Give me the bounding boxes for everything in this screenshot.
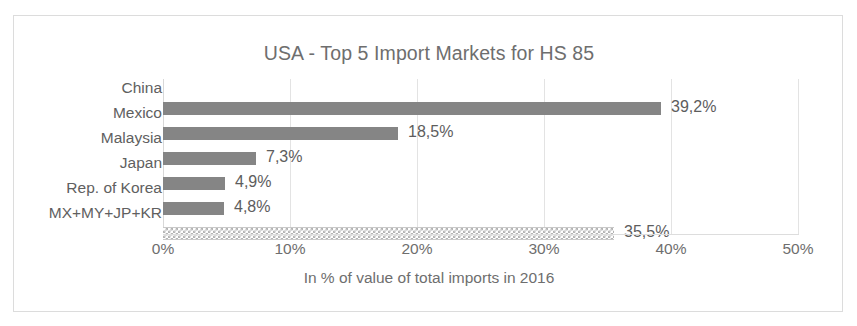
- category-label-china: China: [2, 79, 162, 97]
- bar-value-mx-my-jp-kr: 35,5%: [624, 223, 669, 241]
- bar-value-rep-of-korea: 4,8%: [234, 198, 270, 216]
- bar-value-china: 39,2%: [671, 98, 716, 116]
- category-label-malaysia: Malaysia: [2, 129, 162, 147]
- category-label-japan: Japan: [2, 154, 162, 172]
- chart-title: USA - Top 5 Import Markets for HS 85: [14, 42, 844, 65]
- category-label-mx-my-jp-kr: MX+MY+JP+KR: [2, 204, 162, 222]
- x-tick-50: 50%: [782, 240, 813, 258]
- x-axis-line: [163, 234, 799, 235]
- category-label-rep-of-korea: Rep. of Korea: [2, 179, 162, 197]
- chart-container: USA - Top 5 Import Markets for HS 85 Chi…: [13, 15, 843, 312]
- gridline-50: [798, 79, 799, 234]
- bar-value-japan: 4,9%: [235, 173, 271, 191]
- x-tick-0: 0%: [152, 240, 174, 258]
- plot-area: 39,2% 18,5% 7,3% 4,9% 4,8% 35,5%: [163, 79, 798, 234]
- x-axis-tick-labels: 0% 10% 20% 30% 40% 50%: [163, 240, 798, 262]
- bar-value-mexico: 18,5%: [408, 123, 453, 141]
- category-axis-labels: China Mexico Malaysia Japan Rep. of Kore…: [2, 79, 162, 234]
- x-tick-30: 30%: [528, 240, 559, 258]
- x-tick-40: 40%: [655, 240, 686, 258]
- x-axis-title: In % of value of total imports in 2016: [14, 269, 844, 287]
- category-label-mexico: Mexico: [2, 104, 162, 122]
- bar-japan: [163, 177, 225, 190]
- bar-malaysia: [163, 152, 256, 165]
- bar-value-malaysia: 7,3%: [266, 148, 302, 166]
- bar-mexico: [163, 127, 398, 140]
- x-tick-20: 20%: [401, 240, 432, 258]
- bar-china: [163, 102, 661, 115]
- x-tick-10: 10%: [274, 240, 305, 258]
- bar-rep-of-korea: [163, 202, 224, 215]
